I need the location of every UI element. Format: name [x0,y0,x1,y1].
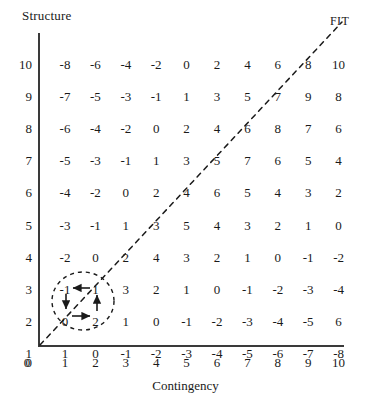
matrix-cell: 7 [295,121,321,137]
matrix-cell: 9 [295,89,321,105]
matrix-cell: -8 [326,346,352,362]
y-tick-label: 10 [6,57,32,73]
x-axis-title: Contingency [0,378,371,394]
matrix-cell: 8 [295,57,321,73]
matrix-cell: 0 [52,314,78,330]
matrix-cell: 1 [82,282,108,298]
matrix-cell: -6 [265,346,291,362]
matrix-cell: 6 [326,121,352,137]
matrix-cell: 3 [113,282,139,298]
matrix-cell: -2 [113,121,139,137]
matrix-cell: -4 [82,121,108,137]
matrix-cell: 4 [265,185,291,201]
matrix-cell: -3 [113,89,139,105]
matrix-cell: 4 [174,185,200,201]
matrix-cell: 0 [82,250,108,266]
matrix-cell: 7 [265,89,291,105]
matrix-cell: -1 [234,282,260,298]
matrix-cell: 5 [295,153,321,169]
y-tick-label: 5 [6,218,32,234]
matrix-cell: 4 [326,153,352,169]
matrix-cell: -4 [204,346,230,362]
matrix-cell: 8 [265,121,291,137]
matrix-cell: 6 [326,314,352,330]
matrix-cell: -3 [295,282,321,298]
matrix-cell: -2 [265,282,291,298]
matrix-cell: 6 [204,185,230,201]
matrix-cell: 4 [234,57,260,73]
matrix-cell: 0 [204,282,230,298]
matrix-cell: -1 [113,346,139,362]
matrix-cell: -4 [52,185,78,201]
matrix-cell: 3 [174,250,200,266]
matrix-cell: 4 [204,121,230,137]
matrix-cell: -7 [52,89,78,105]
matrix-cell: -7 [295,346,321,362]
y-tick-label: 9 [6,89,32,105]
y-axis-title: Structure [22,8,71,24]
matrix-cell: -4 [326,282,352,298]
matrix-cell: 3 [174,153,200,169]
matrix-cell: 1 [52,346,78,362]
matrix-cell: 0 [265,250,291,266]
matrix-cell: 5 [174,218,200,234]
matrix-cell: 8 [326,89,352,105]
matrix-cell: -2 [52,250,78,266]
matrix-cell: -6 [52,121,78,137]
y-tick-label: 8 [6,121,32,137]
matrix-cell: -1 [52,282,78,298]
matrix-cell: 2 [82,314,108,330]
matrix-cell: 0 [143,121,169,137]
matrix-cell: -2 [204,314,230,330]
matrix-cell: 3 [295,185,321,201]
fit-line-label: FIT [330,14,349,29]
matrix-cell: 5 [204,153,230,169]
matrix-cell: -5 [295,314,321,330]
matrix-cell: 2 [143,185,169,201]
matrix-cell: -6 [82,57,108,73]
y-tick-label: 2 [6,314,32,330]
matrix-cell: -1 [295,250,321,266]
matrix-cell: 2 [265,218,291,234]
matrix-cell: 2 [204,250,230,266]
matrix-cell: -3 [234,314,260,330]
matrix-cell: 6 [265,57,291,73]
matrix-cell: 3 [204,89,230,105]
x-tick-label: 0 [14,355,40,371]
y-tick-label: 4 [6,250,32,266]
matrix-cell: 4 [204,218,230,234]
matrix-cell: 0 [143,314,169,330]
y-tick-label: 6 [6,185,32,201]
matrix-cell: -2 [326,250,352,266]
matrix-cell: -3 [82,153,108,169]
matrix-cell: 3 [234,218,260,234]
matrix-cell: 2 [113,250,139,266]
matrix-cell: 1 [295,218,321,234]
fit-matrix-figure: Structure FIT 109876543210 012345678910 … [0,0,371,409]
matrix-cell: 1 [174,282,200,298]
matrix-cell: 0 [113,185,139,201]
matrix-cell: 0 [174,57,200,73]
matrix-cell: 7 [234,153,260,169]
matrix-cell: 1 [234,250,260,266]
matrix-cell: -5 [234,346,260,362]
matrix-cell: 10 [326,57,352,73]
matrix-cell: 5 [234,89,260,105]
matrix-cell: 2 [143,282,169,298]
y-axis-line [38,33,40,347]
y-tick-label: 3 [6,282,32,298]
matrix-cell: 4 [143,250,169,266]
matrix-cell: -4 [265,314,291,330]
matrix-cell: 1 [113,218,139,234]
matrix-cell: -1 [174,314,200,330]
matrix-cell: 6 [265,153,291,169]
matrix-cell: -2 [143,346,169,362]
matrix-cell: -5 [82,89,108,105]
matrix-cell: -1 [113,153,139,169]
matrix-cell: 6 [234,121,260,137]
matrix-cell: 2 [174,121,200,137]
matrix-cell: 2 [204,57,230,73]
matrix-cell: -2 [82,185,108,201]
matrix-cell: 1 [143,153,169,169]
matrix-cell: 1 [113,314,139,330]
